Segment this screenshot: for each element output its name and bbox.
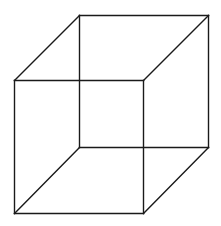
necker-cube-diagram [0, 0, 221, 226]
connector-bottom-left [15, 148, 80, 214]
connector-top-right [144, 16, 209, 81]
connector-bottom-right [144, 148, 209, 214]
cube-wireframe [0, 0, 221, 226]
connector-top-left [15, 16, 80, 81]
